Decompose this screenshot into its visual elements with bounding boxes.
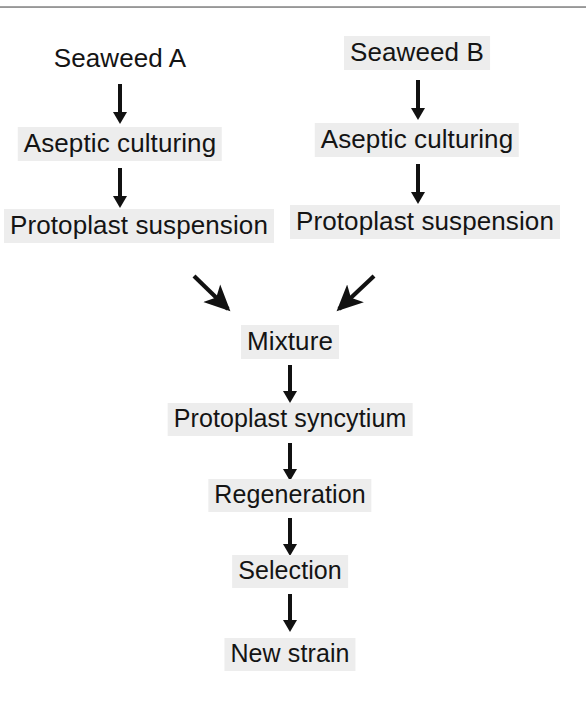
- arrow-regeneration-to-selection: [281, 518, 299, 558]
- arrow-suspension-b-to-mixture: [339, 276, 374, 309]
- node-selection: Selection: [232, 555, 348, 588]
- node-new-strain: New strain: [224, 638, 355, 671]
- node-regeneration: Regeneration: [208, 479, 371, 512]
- node-mixture: Mixture: [241, 325, 339, 359]
- node-protoplast-syncytium: Protoplast syncytium: [168, 403, 413, 436]
- arrow-selection-to-new-strain: [281, 594, 299, 634]
- arrow-syncytium-to-regeneration: [281, 443, 299, 483]
- flowchart-canvas: Seaweed A Aseptic culturing Protoplast s…: [0, 0, 586, 707]
- arrow-mixture-to-syncytium: [281, 365, 299, 405]
- arrow-suspension-a-to-mixture: [194, 276, 228, 309]
